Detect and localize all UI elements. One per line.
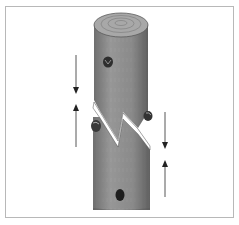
arrow-right-down-icon <box>162 112 168 149</box>
log-illustration <box>0 0 239 225</box>
arrow-left-up-icon <box>73 104 79 147</box>
log-top-rings <box>94 13 148 37</box>
knot-upper-icon <box>103 57 113 68</box>
arrow-right-up-icon <box>162 160 168 197</box>
knot-right-icon <box>144 111 153 121</box>
arrow-left-down-icon <box>73 55 79 94</box>
knot-left-icon <box>91 120 101 132</box>
knot-lower-icon <box>116 189 125 201</box>
